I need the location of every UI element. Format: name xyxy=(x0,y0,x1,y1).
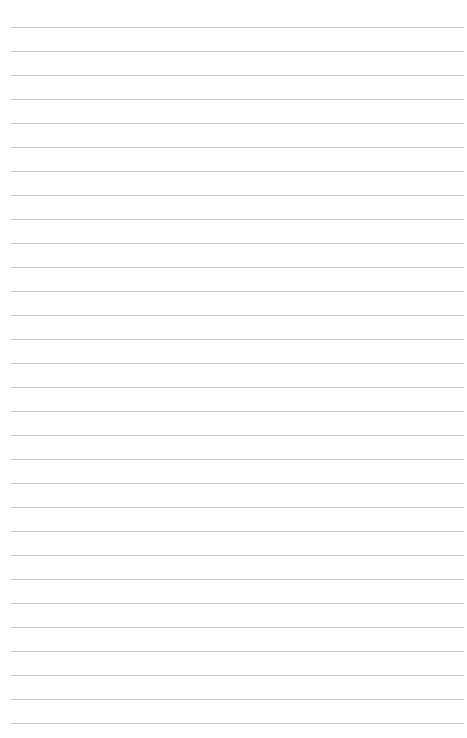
ruled-line xyxy=(11,435,464,436)
ruled-line xyxy=(11,147,464,148)
ruled-line xyxy=(11,699,464,700)
ruled-line xyxy=(11,315,464,316)
ruled-line xyxy=(11,483,464,484)
ruled-line xyxy=(11,243,464,244)
ruled-line xyxy=(11,123,464,124)
ruled-line xyxy=(11,579,464,580)
ruled-line xyxy=(11,75,464,76)
ruled-line xyxy=(11,363,464,364)
ruled-line xyxy=(11,411,464,412)
ruled-line xyxy=(11,675,464,676)
ruled-line xyxy=(11,723,464,724)
ruled-line xyxy=(11,603,464,604)
ruled-line xyxy=(11,387,464,388)
ruled-line xyxy=(11,555,464,556)
ruled-line xyxy=(11,219,464,220)
ruled-line xyxy=(11,627,464,628)
ruled-line xyxy=(11,651,464,652)
ruled-line xyxy=(11,339,464,340)
ruled-line xyxy=(11,99,464,100)
lined-paper-page xyxy=(0,0,467,738)
ruled-line xyxy=(11,171,464,172)
ruled-line xyxy=(11,51,464,52)
ruled-line xyxy=(11,267,464,268)
ruled-line xyxy=(11,507,464,508)
ruled-line xyxy=(11,291,464,292)
ruled-line xyxy=(11,459,464,460)
ruled-line xyxy=(11,195,464,196)
ruled-line xyxy=(11,531,464,532)
ruled-line xyxy=(11,27,464,28)
